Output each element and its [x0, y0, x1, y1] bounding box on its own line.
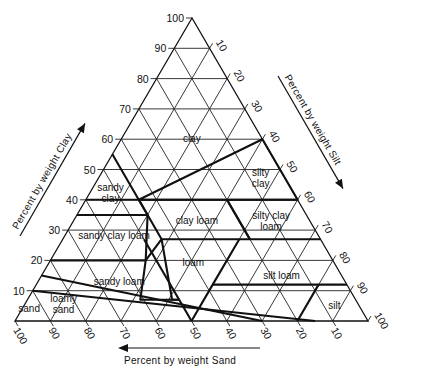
clay-arrow-icon: [77, 121, 88, 133]
class-boundary: [179, 300, 191, 321]
silt-tick-label: 20: [231, 68, 247, 84]
silt-tick: [315, 225, 318, 230]
sand-tick: [262, 321, 265, 326]
sand-tick-label: 40: [223, 325, 239, 341]
clay-tick-label: 50: [84, 164, 96, 176]
sand-axis-title: Percent by weight Sand: [118, 344, 260, 366]
sand-tick-label: 30: [258, 325, 274, 341]
silt-axis-title: Percent by weight Silt: [275, 69, 356, 191]
silt-axis-label: Percent by weight Silt: [283, 72, 344, 166]
region-label-sandy-loam: sandy loam: [94, 276, 145, 287]
region-label-silty-clay-loam: silty clay: [252, 210, 290, 221]
silt-tick-label: 10: [214, 37, 230, 53]
region-label-silty-clay: clay: [252, 178, 270, 189]
region-label-silt-loam: silt loam: [263, 270, 300, 281]
sand-tick: [227, 321, 230, 326]
sand-tick-label: 70: [117, 325, 133, 341]
silt-tick: [262, 134, 265, 139]
silt-tick: [350, 286, 353, 291]
silt-tick: [368, 316, 371, 321]
clay-tick-label: 40: [66, 194, 78, 206]
clay-axis-title: Percent by weight Clay: [8, 116, 89, 238]
silt-tick: [245, 104, 248, 109]
clay-tick-label: 80: [137, 73, 149, 85]
clay-tick-label: 20: [31, 254, 43, 266]
sand-tick-label: 20: [294, 325, 310, 341]
silt-tick-label: 80: [337, 249, 353, 265]
soil-texture-triangle: 1020304050607080901001020304050607080901…: [0, 0, 432, 383]
silt-tick: [210, 43, 213, 48]
class-boundary: [297, 285, 318, 321]
region-label-silty-clay-loam: loam: [260, 221, 282, 232]
clay-tick-label: 10: [13, 285, 25, 297]
sand-tick-label: 50: [188, 325, 204, 341]
sand-tick: [15, 321, 18, 326]
region-label-silty-clay: silty: [252, 167, 269, 178]
silt-tick: [298, 195, 301, 200]
silt-tick-label: 90: [355, 280, 371, 296]
silt-tick-label: 40: [267, 128, 283, 144]
region-label-sand: sand: [18, 303, 40, 314]
silt-tick-label: 50: [284, 159, 300, 175]
sand-arrow-icon: [118, 344, 128, 352]
sand-tick: [121, 321, 124, 326]
sand-tick-label: 60: [152, 325, 168, 341]
silt-tick-label: 30: [249, 98, 265, 114]
silt-tick-label: 100: [372, 310, 391, 331]
sand-tick: [297, 321, 300, 326]
sand-tick: [50, 321, 53, 326]
region-label-sandy-clay-loam: sandy clay loam: [78, 230, 150, 241]
region-label-clay: clay: [183, 133, 201, 144]
sand-tick-label: 90: [47, 325, 63, 341]
clay-tick-label: 60: [102, 133, 114, 145]
sand-tick-label: 100: [11, 325, 30, 346]
class-boundary: [227, 200, 250, 239]
region-label-loamy-sand: loamy: [50, 293, 77, 304]
region-label-clay-loam: clay loam: [176, 215, 218, 226]
silt-tick-label: 70: [319, 219, 335, 235]
region-label-silt: silt: [328, 300, 340, 311]
sand-tick-label: 10: [329, 325, 345, 341]
clay-tick-label: 70: [119, 103, 131, 115]
sand-axis-label: Percent by weight Sand: [124, 355, 236, 366]
clay-axis-label: Percent by weight Clay: [10, 131, 74, 231]
clay-tick-label: 90: [155, 42, 167, 54]
region-label-loamy-sand: sand: [53, 304, 75, 315]
clay-tick-label: 100: [166, 12, 184, 24]
silt-tick: [227, 74, 230, 79]
silt-tick: [280, 165, 283, 170]
sand-tick: [156, 321, 159, 326]
sand-tick-label: 80: [82, 325, 98, 341]
clay-tick-label: 30: [48, 224, 60, 236]
region-label-sandy-clay: clay: [102, 193, 120, 204]
sand-tick: [192, 321, 195, 326]
region-label-sandy-clay: sandy: [97, 182, 124, 193]
silt-tick-label: 60: [302, 189, 318, 205]
silt-arrow-icon: [335, 179, 346, 191]
sand-tick: [333, 321, 336, 326]
silt-tick: [333, 255, 336, 260]
sand-tick: [86, 321, 89, 326]
region-label-loam: loam: [183, 257, 205, 268]
